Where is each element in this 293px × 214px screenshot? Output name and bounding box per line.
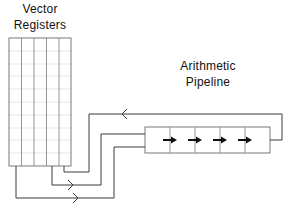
arithmetic-pipeline-block: [145, 127, 270, 153]
pipeline-stage-dividers: [170, 127, 245, 153]
vector-registers-block: [9, 38, 71, 166]
operand-2-path: [16, 147, 145, 203]
register-row-lines: [9, 51, 71, 153]
operand-1-path: [52, 134, 145, 190]
pipeline-stage-arrows: [163, 137, 252, 144]
diagram-canvas: [0, 0, 293, 214]
